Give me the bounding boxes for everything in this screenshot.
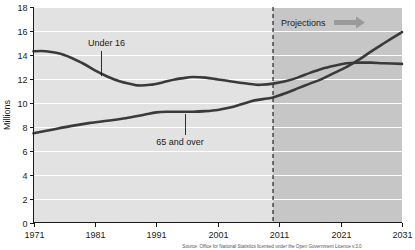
- plot-background-projection: [273, 7, 402, 222]
- x-tick-label: 2031: [392, 230, 412, 240]
- x-tick-label: 1991: [146, 230, 166, 240]
- y-tick-label: 2: [22, 195, 27, 205]
- y-tick-label: 0: [22, 219, 27, 229]
- source-note: Source: Office for National Statistics l…: [182, 244, 362, 249]
- y-axis-title: Millions: [2, 100, 12, 131]
- x-tick-label: 2001: [208, 230, 228, 240]
- y-axis-ticks: 024681012141618: [17, 3, 33, 229]
- series-label-65-and-over: 65 and over: [156, 137, 204, 147]
- y-tick-label: 14: [17, 51, 27, 61]
- y-tick-label: 8: [22, 123, 27, 133]
- chart-figure: Projections Under 16 65 and over 0246810…: [0, 0, 415, 250]
- x-tick-label: 1971: [24, 230, 44, 240]
- x-axis-ticks: 1971198119912001201120212031: [24, 223, 412, 240]
- plot-background-historical: [33, 7, 273, 222]
- y-tick-label: 12: [17, 75, 27, 85]
- y-tick-label: 10: [17, 99, 27, 109]
- series-label-under-16: Under 16: [88, 38, 125, 48]
- x-tick-label: 2021: [331, 230, 351, 240]
- y-tick-label: 6: [22, 147, 27, 157]
- y-tick-label: 4: [22, 171, 27, 181]
- projections-label: Projections: [281, 18, 326, 28]
- x-tick-label: 2011: [270, 230, 289, 240]
- x-tick-label: 1981: [85, 230, 105, 240]
- population-projection-line-chart: Projections Under 16 65 and over 0246810…: [0, 0, 415, 250]
- y-tick-label: 18: [17, 3, 27, 13]
- y-tick-label: 16: [17, 27, 27, 37]
